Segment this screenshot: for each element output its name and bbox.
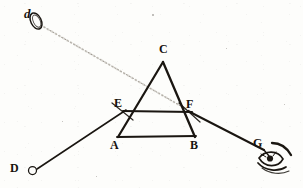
prism-base-a-to-b (117, 136, 196, 137)
label-vertex-b: B (190, 139, 198, 151)
object-point-circle-icon (29, 167, 37, 175)
optical-diagram-figure: d C E F A B D G (0, 0, 303, 188)
label-point-f: F (186, 98, 194, 110)
label-light-source-d: d (24, 7, 31, 20)
label-vertex-a: A (110, 139, 119, 151)
label-point-e: E (114, 97, 122, 109)
label-point-d: D (10, 162, 19, 174)
observer-eye-icon (258, 143, 291, 173)
label-point-g: G (253, 137, 263, 149)
diagram-canvas (0, 0, 303, 188)
internal-ray-e-to-f (123, 111, 192, 112)
label-vertex-c: C (159, 43, 168, 55)
